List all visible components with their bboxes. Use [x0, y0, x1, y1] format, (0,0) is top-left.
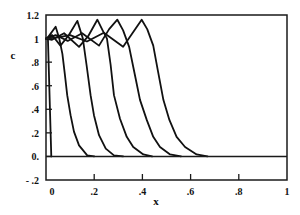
x-axis-title: x [153, 195, 159, 207]
y-tick-label: .8 [32, 57, 40, 68]
y-tick-labels: 1.21.8.6.4.20.- .2 [26, 10, 40, 186]
y-tick-label: - .2 [26, 175, 39, 186]
data-curve [46, 39, 51, 157]
chart-svg: 1.21.8.6.4.20.- .2 0.2.4.6.81 c x [0, 0, 300, 215]
data-curves [46, 20, 207, 157]
x-tick-label: .6 [187, 186, 195, 197]
x-tick-label: 1 [285, 186, 290, 197]
y-tick-label: .6 [32, 81, 40, 92]
y-tick-label: .4 [32, 104, 40, 115]
data-curve [46, 27, 94, 157]
y-tick-label: 0. [32, 151, 40, 162]
y-tick-label: .2 [32, 128, 40, 139]
x-tick-labels: 0.2.4.6.81 [50, 186, 290, 197]
x-tick-label: 0 [50, 186, 55, 197]
y-tick-label: 1.2 [27, 10, 40, 21]
x-tick-label: .4 [139, 186, 147, 197]
y-axis-title: c [11, 49, 16, 61]
x-tick-label: .8 [235, 186, 243, 197]
y-tick-label: 1 [34, 34, 39, 45]
x-tick-label: .2 [90, 186, 98, 197]
